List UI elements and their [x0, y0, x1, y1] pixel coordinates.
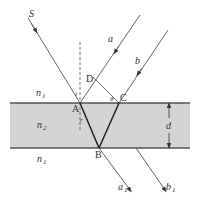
label-a1: a 1 — [118, 181, 128, 194]
label-angle-i: i — [75, 90, 77, 98]
label-a: a — [108, 33, 113, 44]
label-b-point: B — [95, 149, 102, 160]
svg-text:2: 2 — [43, 124, 47, 132]
refraction-diagram: S a b D C A B i θ r n 1 n 2 n 1 d a 1 b … — [0, 0, 200, 203]
svg-text:a: a — [118, 181, 123, 192]
ray-b-arrow — [138, 68, 142, 74]
ray-b1 — [136, 148, 165, 190]
svg-text:n: n — [37, 153, 42, 164]
label-d-point: D — [86, 73, 93, 84]
ray-a1 — [99, 148, 130, 190]
label-n1-bottom: n 1 — [37, 153, 47, 166]
svg-text:1: 1 — [172, 186, 176, 194]
svg-text:b: b — [166, 181, 171, 192]
svg-text:1: 1 — [43, 158, 47, 166]
label-n1-top: n 1 — [36, 87, 46, 100]
svg-text:1: 1 — [124, 186, 128, 194]
ray-a-arrow — [115, 46, 119, 52]
label-b: b — [135, 55, 140, 66]
label-s: S — [29, 8, 34, 19]
svg-text:n: n — [37, 119, 42, 130]
svg-text:n: n — [36, 87, 41, 98]
ray-a — [80, 15, 140, 103]
label-c-point: C — [120, 92, 127, 103]
label-a-point: A — [72, 103, 80, 114]
label-b1: b 1 — [166, 181, 176, 194]
label-angle-r: r — [80, 116, 83, 124]
wavefront-dc — [93, 77, 119, 103]
label-angle-theta: θ — [110, 95, 114, 103]
ray-s-arrow — [31, 23, 36, 31]
svg-text:1: 1 — [42, 92, 46, 100]
